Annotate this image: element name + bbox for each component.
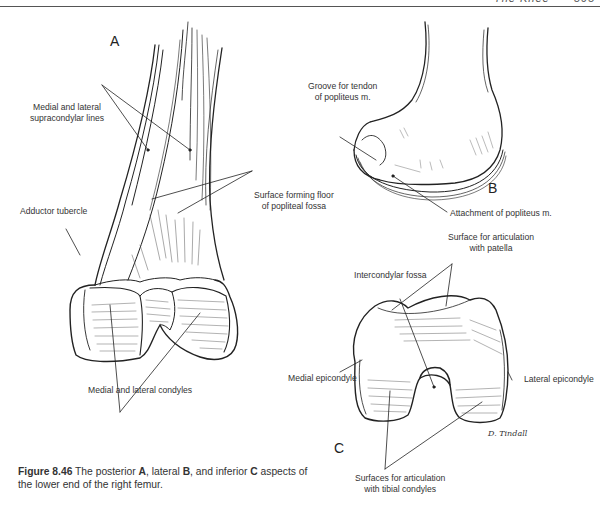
label-popliteal-floor: Surface forming floor of popliteal fossa bbox=[254, 190, 334, 211]
label-intercondylar-fossa: Intercondylar fossa bbox=[354, 270, 427, 281]
panel-b-leaders bbox=[340, 137, 447, 212]
label-line-1: Surface forming floor bbox=[254, 190, 334, 201]
figure-number: Figure 8.46 bbox=[18, 466, 72, 477]
label-line-2: with tibial condyles bbox=[355, 484, 445, 495]
panel-a-drawing bbox=[70, 22, 238, 362]
figure-caption: Figure 8.46 The posterior A, lateral B, … bbox=[18, 466, 308, 491]
panel-label-b: B bbox=[488, 180, 497, 196]
label-adductor-tubercle: Adductor tubercle bbox=[20, 206, 87, 217]
label-condyles: Medial and lateral condyles bbox=[88, 385, 192, 396]
label-popliteus-groove: Groove for tendon of popliteus m. bbox=[308, 81, 377, 102]
caption-text: , lateral bbox=[146, 466, 183, 477]
label-supracondylar-lines: Medial and lateral supracondylar lines bbox=[30, 102, 104, 123]
panel-label-a: A bbox=[110, 33, 119, 49]
panel-label-c: C bbox=[334, 440, 344, 456]
artist-signature: D. Tindall bbox=[487, 429, 528, 438]
caption-panel-b: B bbox=[183, 466, 190, 477]
label-line-2: of popliteal fossa bbox=[254, 201, 334, 212]
label-line-1: Medial and lateral bbox=[30, 102, 104, 113]
label-line-2: supracondylar lines bbox=[30, 113, 104, 124]
label-patella-surface: Surface for articulation with patella bbox=[448, 232, 534, 253]
panel-a-leaders bbox=[66, 85, 252, 412]
caption-panel-c: C bbox=[250, 466, 257, 477]
label-popliteus-attachment: Attachment of popliteus m. bbox=[450, 208, 552, 219]
panel-c-leaders bbox=[340, 264, 512, 469]
caption-panel-a: A bbox=[139, 466, 146, 477]
caption-text: , and inferior bbox=[190, 466, 250, 477]
caption-text: The posterior bbox=[72, 466, 138, 477]
panel-c-drawing bbox=[354, 296, 508, 423]
label-medial-epicondyle: Medial epicondyle bbox=[288, 373, 357, 384]
label-lateral-epicondyle: Lateral epicondyle bbox=[524, 374, 594, 385]
label-line-2: of popliteus m. bbox=[308, 92, 377, 103]
label-line-1: Groove for tendon bbox=[308, 81, 377, 92]
label-line-1: Surface for articulation bbox=[448, 232, 534, 243]
label-line-1: Surfaces for articulation bbox=[355, 473, 445, 484]
label-line-2: with patella bbox=[448, 243, 534, 254]
label-tibial-surfaces: Surfaces for articulation with tibial co… bbox=[355, 473, 445, 494]
panel-b-drawing bbox=[354, 22, 506, 200]
